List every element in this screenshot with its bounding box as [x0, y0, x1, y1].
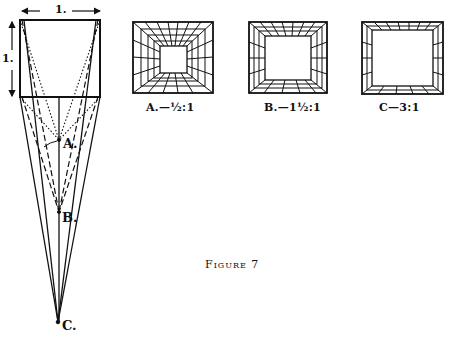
room-b-caption: B.—1½:1 — [264, 101, 321, 114]
point-b-label: B. — [62, 210, 78, 225]
room-b-drawing — [249, 22, 327, 93]
lines-to-point-b — [22, 20, 98, 212]
width-label: 1. — [55, 3, 66, 16]
point-c-label: C. — [62, 318, 77, 333]
room-c-drawing — [362, 22, 443, 94]
left-construction-diagram — [12, 11, 100, 324]
figure-canvas — [0, 0, 449, 340]
point-c-dot — [56, 320, 60, 324]
room-a-drawing — [133, 22, 213, 93]
room-c-caption: C—3:1 — [379, 101, 420, 114]
height-label: 1. — [2, 52, 13, 65]
point-b-dot — [58, 211, 61, 214]
room-a-caption: A.—½:1 — [146, 101, 194, 114]
point-a-label: A. — [63, 136, 78, 151]
point-a-dot — [58, 139, 61, 142]
figure-title: Figure 7 — [205, 258, 259, 271]
lines-to-point-c — [20, 20, 100, 322]
